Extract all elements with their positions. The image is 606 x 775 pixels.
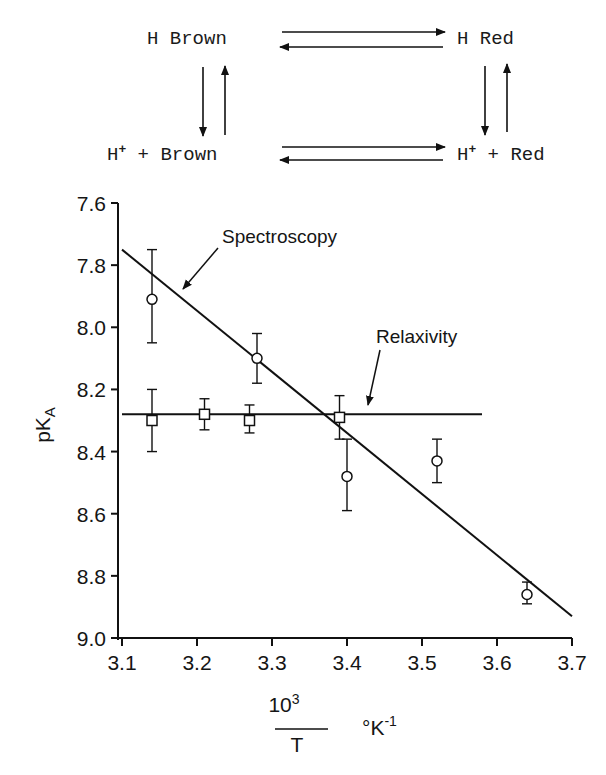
ylabel-sub: A	[41, 407, 58, 417]
x-axis-ticks: 3.13.23.33.43.53.63.7	[107, 638, 586, 674]
x-tick-label: 3.6	[482, 651, 511, 674]
xlabel-denominator: T	[291, 733, 304, 756]
annotation-arrow-relaxivity-icon	[368, 350, 380, 405]
circle-marker	[522, 590, 532, 600]
xlabel-unit: °K-1	[362, 713, 397, 739]
equilibrium-arrows	[203, 32, 507, 160]
x-tick-label: 3.4	[332, 651, 362, 674]
circle-marker	[147, 294, 157, 304]
ylabel-main: pK	[31, 417, 54, 443]
y-axis-ticks: 7.67.88.08.28.48.68.89.0	[77, 192, 118, 650]
pka-chart: 7.67.88.08.28.48.68.89.0 3.13.23.33.43.5…	[0, 0, 606, 775]
x-axis-title: 103 T °K-1	[268, 691, 397, 756]
y-tick-label: 8.2	[77, 378, 106, 401]
xlabel-exp: 3	[292, 691, 300, 707]
square-marker	[335, 412, 345, 422]
fit-line	[122, 250, 572, 617]
x-tick-label: 3.3	[257, 651, 286, 674]
square-marker	[200, 409, 210, 419]
y-tick-label: 8.6	[77, 503, 106, 526]
x-tick-label: 3.7	[557, 651, 586, 674]
y-tick-label: 8.8	[77, 565, 106, 588]
circle-marker	[252, 353, 262, 363]
y-tick-label: 8.0	[77, 316, 106, 339]
circle-marker	[342, 471, 352, 481]
square-marker	[147, 416, 157, 426]
y-axis-title: pKA	[31, 407, 58, 443]
y-tick-label: 7.8	[77, 254, 106, 277]
y-tick-label: 8.4	[77, 441, 107, 464]
square-marker	[245, 416, 255, 426]
data-series	[122, 250, 572, 617]
annotation-relaxivity: Relaxivity	[376, 326, 458, 347]
svg-text:pKA: pKA	[31, 407, 58, 443]
xlabel-numerator: 10	[268, 693, 291, 716]
x-tick-label: 3.5	[407, 651, 436, 674]
series-relaxivity	[122, 389, 482, 451]
series-spectroscopy	[122, 250, 572, 617]
annotation-arrow-spectroscopy-icon	[183, 248, 218, 289]
svg-text:103: 103	[268, 691, 299, 716]
annotation-spectroscopy: Spectroscopy	[222, 226, 338, 247]
y-tick-label: 9.0	[77, 627, 106, 650]
x-tick-label: 3.2	[182, 651, 211, 674]
x-tick-label: 3.1	[107, 651, 136, 674]
y-tick-label: 7.6	[77, 192, 106, 215]
circle-marker	[432, 456, 442, 466]
